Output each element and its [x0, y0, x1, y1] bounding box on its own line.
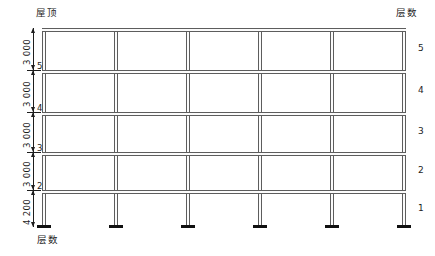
column-1	[42, 28, 47, 225]
column-base-support-1	[37, 225, 51, 228]
column-2	[114, 28, 119, 225]
column-5	[330, 28, 335, 225]
column-base-support-2	[109, 225, 123, 228]
beam-level-4	[42, 70, 407, 74]
column-base-support-4	[253, 225, 267, 228]
floor-number-5: 5	[418, 43, 424, 53]
floor-count-label-right: 层数	[396, 8, 417, 18]
dimension-extension-line	[33, 28, 34, 227]
dimension-value-2: 3 000	[22, 81, 32, 107]
column-4	[258, 28, 263, 225]
column-3	[186, 28, 191, 225]
beam-level-5	[42, 28, 407, 32]
frame-elevation-diagram: 屋顶 层数 层数 3 00053 00043 00033 00024 200 5…	[0, 0, 435, 256]
dimension-value-3: 3 000	[22, 122, 32, 148]
dimension-arrow-top-2	[31, 70, 35, 75]
beam-level-3	[42, 112, 407, 116]
column-base-support-3	[181, 225, 195, 228]
dimension-arrow-top-4	[31, 152, 35, 157]
floor-number-2: 2	[418, 165, 424, 175]
column-6	[402, 28, 407, 225]
floor-number-1: 1	[418, 203, 424, 213]
beam-level-1	[42, 190, 407, 194]
floor-count-label-left: 层数	[37, 235, 58, 245]
dimension-value-4: 3 000	[22, 161, 32, 187]
beam-level-2	[42, 152, 407, 156]
column-base-support-5	[325, 225, 339, 228]
floor-number-3: 3	[418, 126, 424, 136]
dimension-value-1: 3 000	[22, 39, 32, 65]
roof-label: 屋顶	[36, 8, 57, 18]
dimension-arrow-top-3	[31, 112, 35, 117]
column-base-support-6	[397, 225, 411, 228]
dimension-value-5: 4 200	[22, 199, 32, 225]
floor-number-4: 4	[418, 85, 424, 95]
dimension-arrow-top-1	[31, 28, 35, 33]
dimension-arrow-top-5	[31, 190, 35, 195]
